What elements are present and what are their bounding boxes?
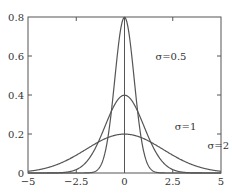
gaussian-pdf-chart: −5−2.502.5500.20.40.60.8σ=0.5σ=1σ=2 xyxy=(0,0,232,194)
y-tick-label: 0.6 xyxy=(8,51,24,62)
y-tick-label: 0 xyxy=(18,168,24,179)
x-tick-label: 2.5 xyxy=(165,176,181,187)
y-tick-label: 0.4 xyxy=(8,90,24,101)
x-tick-label: −2.5 xyxy=(64,176,88,187)
series-annotation: σ=2 xyxy=(207,140,229,151)
y-tick-label: 0.2 xyxy=(8,129,24,140)
plot-area xyxy=(28,17,221,173)
series-annotation: σ=1 xyxy=(175,121,197,132)
series-annotation: σ=0.5 xyxy=(155,51,186,62)
y-tick-label: 0.8 xyxy=(8,12,24,23)
x-tick-label: 0 xyxy=(121,176,127,187)
x-tick-label: 5 xyxy=(218,176,224,187)
